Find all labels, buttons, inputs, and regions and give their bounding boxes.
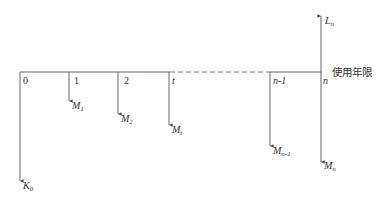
tick-label-n: n (323, 75, 328, 86)
flow-label-m1: M1 (71, 100, 84, 113)
flow-label-k0: K0 (22, 180, 34, 193)
flow-labels: K0 M1 M2 Mt Mn-1 Mn Ln (22, 15, 336, 193)
flow-label-mt: Mt (171, 124, 183, 137)
flow-label-mn: Mn (323, 160, 336, 173)
tick-label-n-1: n-1 (273, 75, 286, 86)
flow-label-ln: Ln (324, 15, 335, 28)
cash-flow-diagram: 0 1 2 t n-1 n 使用年限 K0 M1 M2 Mt Mn-1 Mn L… (0, 0, 386, 197)
tick-label-0: 0 (23, 75, 28, 86)
outflow-arrows (20, 72, 321, 181)
flow-label-m2: M2 (120, 113, 133, 126)
tick-label-t: t (172, 75, 175, 86)
axis-title: 使用年限 (332, 66, 373, 78)
flow-label-mn-1: Mn-1 (272, 145, 291, 158)
tick-label-2: 2 (124, 75, 129, 86)
tick-label-1: 1 (74, 75, 79, 86)
